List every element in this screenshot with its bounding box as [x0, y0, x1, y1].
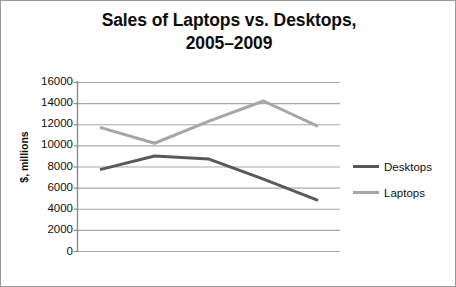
- chart-legend: Desktops Laptops: [353, 156, 449, 208]
- gridlines: [78, 83, 340, 252]
- series-line-desktops[interactable]: [100, 156, 318, 200]
- series-line-laptops[interactable]: [100, 101, 318, 143]
- legend-swatch-desktops: [353, 165, 379, 168]
- chart-container: Sales of Laptops vs. Desktops, 2005–2009…: [0, 0, 456, 287]
- legend-item-laptops[interactable]: Laptops: [353, 182, 449, 203]
- legend-label-laptops: Laptops: [384, 187, 425, 199]
- plot-area: [1, 1, 456, 287]
- series-lines: [100, 101, 318, 200]
- legend-label-desktops: Desktops: [384, 161, 432, 173]
- legend-swatch-laptops: [353, 191, 379, 194]
- legend-item-desktops[interactable]: Desktops: [353, 156, 449, 177]
